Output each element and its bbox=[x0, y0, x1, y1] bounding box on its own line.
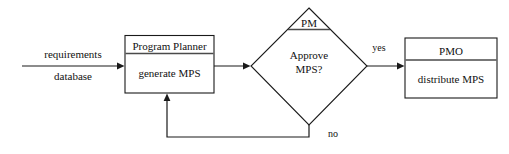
process-box-program-planner[interactable]: Program Planner generate MPS bbox=[125, 36, 214, 94]
decision-header-label: PM bbox=[301, 17, 317, 29]
input-arrowhead bbox=[117, 63, 125, 70]
no-branch-label: no bbox=[328, 128, 338, 139]
decision-body-label-line1: Approve bbox=[290, 49, 329, 61]
no-branch-arrowhead bbox=[164, 94, 171, 102]
yes-branch-arrowhead bbox=[397, 63, 405, 70]
flowchart-diagram: requirements database Program Planner ge… bbox=[0, 0, 509, 154]
output-box-body-label: distribute MPS bbox=[418, 73, 484, 85]
yes-branch-connector bbox=[367, 63, 405, 70]
process-box-header-label: Program Planner bbox=[132, 40, 207, 52]
decision-body-label-line2: MPS? bbox=[296, 63, 323, 75]
input-label-line1: requirements bbox=[44, 48, 101, 60]
output-box-header-label: PMO bbox=[439, 45, 463, 57]
input-label-line2: database bbox=[54, 70, 92, 82]
process-box-body-label: generate MPS bbox=[138, 67, 200, 79]
process-to-decision-connector bbox=[214, 63, 251, 70]
input-connector bbox=[22, 63, 125, 70]
output-box-pmo[interactable]: PMO distribute MPS bbox=[405, 38, 497, 98]
flowchart-canvas: requirements database Program Planner ge… bbox=[0, 0, 509, 154]
yes-branch-label: yes bbox=[372, 42, 385, 53]
decision-diamond-approve-mps[interactable]: PM Approve MPS? bbox=[251, 8, 367, 125]
process-to-decision-arrowhead bbox=[243, 63, 251, 70]
